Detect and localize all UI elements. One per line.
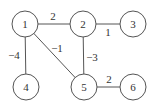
edge-weight-label: −4	[8, 49, 20, 61]
edge-weight-label: 1	[105, 26, 111, 38]
edge-weight-label: −3	[86, 51, 98, 63]
node-1: 1	[12, 11, 38, 37]
node-6: 6	[120, 74, 146, 100]
edge-weight-label: −1	[51, 42, 63, 54]
node-label: 5	[81, 81, 87, 93]
node-2: 2	[70, 11, 96, 37]
node-5: 5	[71, 74, 97, 100]
node-4: 4	[13, 74, 39, 100]
edge-weight-label: 2	[106, 73, 112, 85]
node-3: 3	[120, 11, 146, 37]
node-label: 3	[130, 18, 136, 30]
edge-weight-label: 2	[50, 10, 56, 22]
weighted-graph-diagram: 123456 21−4−1−32	[0, 0, 158, 108]
node-label: 6	[130, 81, 136, 93]
node-label: 4	[23, 81, 29, 93]
node-label: 1	[22, 18, 28, 30]
node-label: 2	[80, 18, 86, 30]
nodes-group: 123456	[12, 11, 146, 100]
